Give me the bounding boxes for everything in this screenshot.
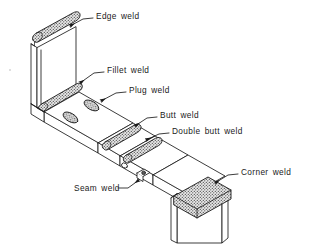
label-butt-weld: Butt weld — [160, 110, 199, 120]
label-fillet-weld: Fillet weld — [107, 65, 149, 75]
label-corner-weld: Corner weld — [241, 167, 291, 177]
upright-plate-left-edge — [31, 44, 37, 108]
leader-seam-weld — [118, 180, 139, 188]
leader-fillet-weld — [80, 72, 104, 83]
label-edge-weld: Edge weld — [96, 11, 140, 21]
seam-weld-spot — [142, 171, 146, 175]
scan-speck — [9, 69, 11, 71]
label-seam-weld: Seam weld — [74, 183, 120, 193]
label-double-butt-weld: Double butt weld — [172, 126, 243, 136]
leader-plug-weld — [101, 92, 126, 101]
figure-canvas: Edge weld Fillet weld Plug weld Butt wel… — [0, 0, 309, 252]
label-plug-weld: Plug weld — [129, 85, 170, 95]
weld-types-diagram: Edge weld Fillet weld Plug weld Butt wel… — [0, 0, 309, 252]
